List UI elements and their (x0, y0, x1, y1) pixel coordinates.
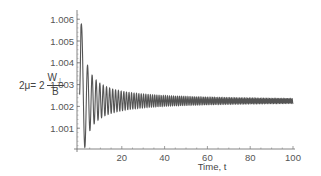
x-tick-label: 40 (159, 152, 170, 163)
y-tick-label: 1.002 (50, 101, 74, 112)
x-axis: 20406080100 (74, 146, 301, 163)
y-axis-title-lhs: 2μ= 2 (19, 80, 45, 91)
series-line (80, 24, 293, 147)
y-axis-title: 2μ= 2 W⊥ B (19, 73, 64, 97)
y-axis-title-numerator: W⊥ (47, 73, 64, 86)
x-tick-label: 80 (245, 152, 256, 163)
y-tick-label: 1.005 (50, 36, 74, 47)
y-tick-label: 1.006 (50, 14, 74, 25)
y-axis-title-fraction: W⊥ B (47, 73, 64, 97)
x-tick-label: 20 (117, 152, 128, 163)
x-axis-title: Time, t (198, 161, 227, 172)
numerator-subscript: ⊥ (57, 77, 63, 84)
x-tick-label: 100 (285, 152, 301, 163)
y-tick-label: 1.004 (50, 57, 74, 68)
numerator-text: W (48, 72, 57, 83)
y-axis-title-denominator: B (52, 86, 59, 97)
y-tick-label: 1.001 (50, 123, 74, 134)
